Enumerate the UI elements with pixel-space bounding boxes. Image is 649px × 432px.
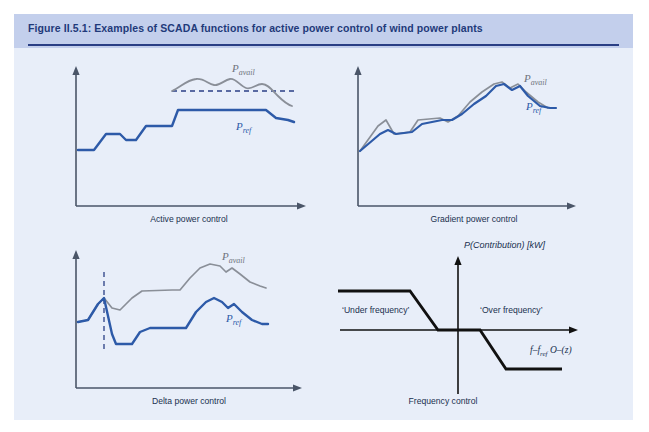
under-frequency-label: ‘Under frequency’ — [342, 305, 409, 315]
y-axis-label: P(Contribution) [kW] — [464, 240, 546, 250]
caption-gradient-power-control: Gradient power control — [334, 214, 614, 224]
caption-delta-power-control: Delta power control — [54, 396, 324, 406]
figure-panel: Figure II.5.1: Examples of SCADA functio… — [14, 14, 633, 420]
figure-title: Figure II.5.1: Examples of SCADA functio… — [28, 22, 483, 34]
axes — [72, 250, 302, 392]
p-ref-curve — [360, 84, 556, 151]
frequency-control-plot: P(Contribution) [kW] f–fref O–(z) ‘Under… — [334, 236, 624, 416]
label-p-avail: Pavail — [231, 62, 256, 77]
caption-active-power-control: Active power control — [54, 214, 324, 224]
chart-frequency-control: P(Contribution) [kW] f–fref O–(z) ‘Under… — [334, 236, 624, 416]
p-avail-curve — [360, 82, 548, 151]
axes — [340, 256, 578, 394]
title-divider — [28, 44, 619, 46]
x-axis-label: f–fref O–(z) — [530, 345, 572, 358]
label-p-ref: Pref — [225, 312, 243, 327]
chart-active-power-control: Pavail Pref Active power control — [54, 58, 324, 238]
label-p-avail: Pavail — [523, 72, 548, 87]
gradient-power-control-plot: Pavail Pref — [334, 58, 614, 238]
active-power-control-plot: Pavail Pref — [54, 58, 324, 238]
chart-delta-power-control: Pavail Pref Delta power control — [54, 236, 324, 416]
caption-frequency-control: Frequency control — [298, 396, 588, 406]
p-ref-curve — [78, 110, 294, 150]
figure-title-band: Figure II.5.1: Examples of SCADA functio… — [14, 14, 633, 48]
over-frequency-label: ‘Over frequency’ — [480, 305, 543, 315]
delta-power-control-plot: Pavail Pref — [54, 236, 324, 416]
chart-gradient-power-control: Pavail Pref Gradient power control — [334, 58, 614, 238]
p-avail-curve — [172, 79, 292, 106]
label-p-ref: Pref — [235, 120, 253, 135]
axes — [354, 66, 576, 210]
label-p-avail: Pavail — [221, 250, 246, 265]
